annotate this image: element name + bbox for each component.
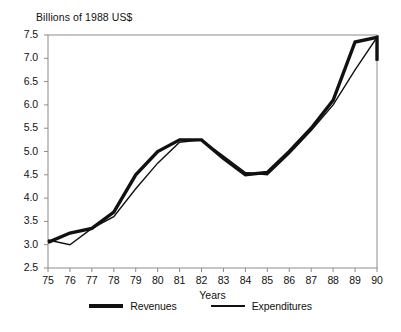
x-tick-label: 77 [81,274,103,286]
y-tick-label: 3.0 [10,238,38,250]
legend-swatch-expenditures-icon [211,305,245,306]
y-tick-label: 6.0 [10,98,38,110]
x-tick-label: 79 [125,274,147,286]
x-tick-label: 82 [191,274,213,286]
x-tick-label: 78 [103,274,125,286]
axes-frame [48,35,377,268]
plot-border [48,35,377,268]
legend-label-revenues: Revenues [130,300,176,312]
data-series-layer [48,37,377,244]
y-tick-label: 5.5 [10,121,38,133]
y-tick-label: 6.5 [10,75,38,87]
legend-item-revenues: Revenues [89,300,176,312]
x-tick-label: 81 [169,274,191,286]
y-tick-label: 3.5 [10,214,38,226]
y-tick-label: 7.5 [10,28,38,40]
legend-label-expenditures: Expenditures [252,300,312,312]
x-tick-label: 88 [322,274,344,286]
x-tick-label: 85 [256,274,278,286]
x-tick-label: 84 [234,274,256,286]
y-tick-label: 4.0 [10,191,38,203]
x-tick-label: 86 [278,274,300,286]
series-line-expenditures [48,37,377,244]
legend-item-expenditures: Expenditures [211,300,312,312]
y-tick-label: 7.0 [10,51,38,63]
chart-figure: Billions of 1988 US$ 2.53.03.54.04.55.05… [0,0,401,332]
y-tick-label: 4.5 [10,168,38,180]
x-tick-label: 83 [212,274,234,286]
chart-legend: Revenues Expenditures [0,300,401,312]
x-tick-label: 90 [366,274,388,286]
x-axis-ticks [48,268,377,272]
y-axis-ticks [44,35,48,268]
x-tick-label: 75 [37,274,59,286]
y-tick-label: 2.5 [10,261,38,273]
series-line-revenues [48,37,377,242]
legend-swatch-revenues-icon [89,304,123,307]
x-tick-label: 87 [300,274,322,286]
x-tick-label: 89 [344,274,366,286]
x-tick-label: 76 [59,274,81,286]
x-tick-label: 80 [147,274,169,286]
y-tick-label: 5.0 [10,145,38,157]
